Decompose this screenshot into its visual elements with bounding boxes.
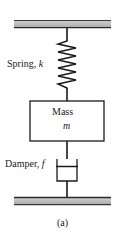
top-ground-fill bbox=[14, 20, 111, 28]
spring-symbol: k bbox=[39, 58, 43, 69]
spring-label-text: Spring, bbox=[7, 58, 36, 69]
bottom-ground-support bbox=[14, 197, 111, 205]
damper-dashpot bbox=[56, 159, 78, 181]
damper-label: Damper, f bbox=[5, 159, 45, 169]
figure-caption: (a) bbox=[0, 218, 125, 228]
spring-zigzag-path bbox=[58, 41, 76, 88]
spring-label: Spring, k bbox=[7, 59, 43, 69]
top-ground-support bbox=[14, 20, 111, 28]
spring-coil bbox=[58, 41, 76, 88]
damper-cylinder bbox=[57, 159, 77, 181]
mass-symbol: m bbox=[63, 121, 70, 131]
damper-symbol: f bbox=[42, 158, 45, 169]
mass-label: Mass bbox=[52, 107, 73, 117]
damper-label-text: Damper, bbox=[5, 158, 39, 169]
